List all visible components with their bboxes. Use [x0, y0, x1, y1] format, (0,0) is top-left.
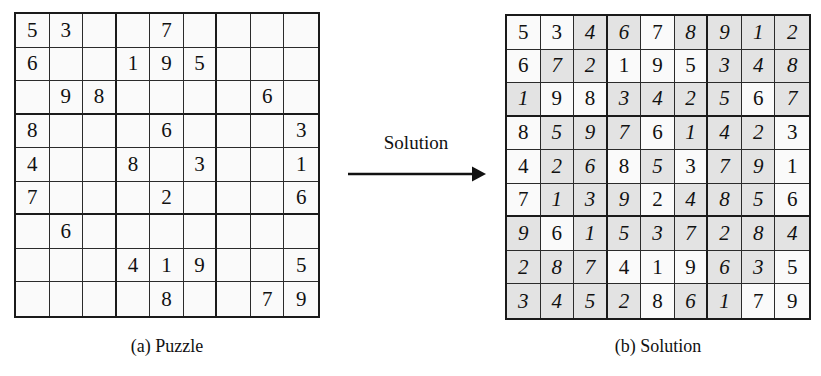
- sudoku-cell[interactable]: [184, 182, 218, 216]
- sudoku-cell[interactable]: 6: [50, 215, 84, 249]
- sudoku-cell[interactable]: 2: [641, 184, 675, 218]
- sudoku-cell[interactable]: 1: [708, 284, 742, 318]
- sudoku-cell[interactable]: 6: [775, 184, 809, 218]
- sudoku-cell[interactable]: 6: [574, 150, 608, 184]
- sudoku-cell[interactable]: [217, 249, 251, 283]
- sudoku-cell[interactable]: 4: [708, 117, 742, 151]
- sudoku-cell[interactable]: 6: [708, 251, 742, 285]
- sudoku-cell[interactable]: 6: [742, 83, 776, 117]
- sudoku-cell[interactable]: 6: [150, 115, 184, 149]
- sudoku-cell[interactable]: 1: [608, 50, 642, 84]
- sudoku-cell[interactable]: 7: [708, 150, 742, 184]
- sudoku-cell[interactable]: 3: [641, 217, 675, 251]
- sudoku-cell[interactable]: 2: [574, 50, 608, 84]
- sudoku-cell[interactable]: 9: [675, 251, 709, 285]
- sudoku-cell[interactable]: 8: [675, 16, 709, 50]
- sudoku-cell[interactable]: 5: [507, 16, 541, 50]
- sudoku-cell[interactable]: [150, 148, 184, 182]
- sudoku-cell[interactable]: [284, 215, 318, 249]
- sudoku-cell[interactable]: 1: [117, 48, 151, 82]
- sudoku-cell[interactable]: 9: [541, 83, 575, 117]
- sudoku-cell[interactable]: 3: [284, 115, 318, 149]
- sudoku-cell[interactable]: 5: [541, 117, 575, 151]
- sudoku-cell[interactable]: 2: [675, 83, 709, 117]
- sudoku-cell[interactable]: [184, 282, 218, 316]
- sudoku-cell[interactable]: 1: [150, 249, 184, 283]
- sudoku-cell[interactable]: 2: [541, 150, 575, 184]
- sudoku-cell[interactable]: 4: [675, 184, 709, 218]
- sudoku-cell[interactable]: [150, 215, 184, 249]
- sudoku-cell[interactable]: 9: [742, 150, 776, 184]
- sudoku-cell[interactable]: [117, 282, 151, 316]
- sudoku-cell[interactable]: [50, 282, 84, 316]
- sudoku-cell[interactable]: 6: [16, 48, 50, 82]
- sudoku-cell[interactable]: 9: [608, 184, 642, 218]
- sudoku-cell[interactable]: [184, 215, 218, 249]
- sudoku-cell[interactable]: 5: [284, 249, 318, 283]
- sudoku-cell[interactable]: 6: [507, 50, 541, 84]
- sudoku-cell[interactable]: 6: [608, 16, 642, 50]
- sudoku-cell[interactable]: [251, 48, 285, 82]
- sudoku-cell[interactable]: 3: [184, 148, 218, 182]
- sudoku-cell[interactable]: 5: [16, 14, 50, 48]
- sudoku-cell[interactable]: 4: [16, 148, 50, 182]
- sudoku-cell[interactable]: 7: [507, 184, 541, 218]
- sudoku-cell[interactable]: [50, 115, 84, 149]
- sudoku-cell[interactable]: 5: [641, 150, 675, 184]
- sudoku-cell[interactable]: 3: [574, 184, 608, 218]
- sudoku-cell[interactable]: 9: [184, 249, 218, 283]
- sudoku-cell[interactable]: 1: [775, 150, 809, 184]
- sudoku-cell[interactable]: 3: [50, 14, 84, 48]
- sudoku-cell[interactable]: [217, 282, 251, 316]
- sudoku-cell[interactable]: [251, 249, 285, 283]
- sudoku-cell[interactable]: 2: [742, 117, 776, 151]
- sudoku-cell[interactable]: 1: [675, 117, 709, 151]
- sudoku-cell[interactable]: 8: [775, 50, 809, 84]
- sudoku-cell[interactable]: 7: [675, 217, 709, 251]
- sudoku-cell[interactable]: [184, 81, 218, 115]
- sudoku-cell[interactable]: 1: [742, 16, 776, 50]
- sudoku-cell[interactable]: 4: [574, 16, 608, 50]
- sudoku-cell[interactable]: [217, 115, 251, 149]
- sudoku-cell[interactable]: 8: [641, 284, 675, 318]
- sudoku-cell[interactable]: 4: [775, 217, 809, 251]
- sudoku-cell[interactable]: [150, 81, 184, 115]
- sudoku-cell[interactable]: [284, 81, 318, 115]
- puzzle-grid[interactable]: 5376195986863483172664195879: [14, 12, 320, 318]
- sudoku-cell[interactable]: 6: [541, 217, 575, 251]
- sudoku-cell[interactable]: 6: [675, 284, 709, 318]
- sudoku-cell[interactable]: 2: [608, 284, 642, 318]
- sudoku-cell[interactable]: [284, 14, 318, 48]
- sudoku-cell[interactable]: 3: [507, 284, 541, 318]
- sudoku-cell[interactable]: 2: [507, 251, 541, 285]
- sudoku-cell[interactable]: 5: [608, 217, 642, 251]
- sudoku-cell[interactable]: 3: [742, 251, 776, 285]
- sudoku-cell[interactable]: 3: [675, 150, 709, 184]
- sudoku-cell[interactable]: 4: [117, 249, 151, 283]
- sudoku-cell[interactable]: [117, 115, 151, 149]
- sudoku-cell[interactable]: 8: [83, 81, 117, 115]
- sudoku-cell[interactable]: 4: [541, 284, 575, 318]
- sudoku-cell[interactable]: [117, 81, 151, 115]
- sudoku-cell[interactable]: 8: [150, 282, 184, 316]
- sudoku-cell[interactable]: 7: [541, 50, 575, 84]
- sudoku-cell[interactable]: 5: [675, 50, 709, 84]
- sudoku-cell[interactable]: 9: [641, 50, 675, 84]
- sudoku-cell[interactable]: 1: [574, 217, 608, 251]
- sudoku-cell[interactable]: [50, 182, 84, 216]
- sudoku-cell[interactable]: 8: [608, 150, 642, 184]
- sudoku-cell[interactable]: [16, 282, 50, 316]
- sudoku-cell[interactable]: 7: [641, 16, 675, 50]
- sudoku-cell[interactable]: [83, 282, 117, 316]
- solution-grid[interactable]: 5346789126721953481983425678597614234268…: [505, 14, 811, 320]
- sudoku-cell[interactable]: 7: [742, 284, 776, 318]
- sudoku-cell[interactable]: 9: [574, 117, 608, 151]
- sudoku-cell[interactable]: 6: [284, 182, 318, 216]
- sudoku-cell[interactable]: 7: [775, 83, 809, 117]
- sudoku-cell[interactable]: [251, 115, 285, 149]
- sudoku-cell[interactable]: [284, 48, 318, 82]
- sudoku-cell[interactable]: 8: [541, 251, 575, 285]
- sudoku-cell[interactable]: 9: [708, 16, 742, 50]
- sudoku-cell[interactable]: 3: [708, 50, 742, 84]
- sudoku-cell[interactable]: 7: [251, 282, 285, 316]
